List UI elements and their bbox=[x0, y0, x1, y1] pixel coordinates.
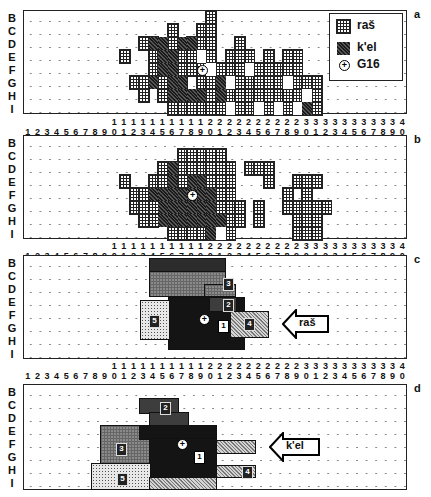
empty-cell bbox=[302, 89, 312, 102]
ras-cell bbox=[216, 162, 226, 175]
empty-cell bbox=[197, 50, 207, 63]
g16-circled-plus-icon: + bbox=[177, 439, 188, 450]
ras-cell bbox=[158, 175, 168, 188]
ras-cell bbox=[149, 214, 159, 227]
ras-cell bbox=[206, 149, 216, 162]
row-label-d: D bbox=[6, 38, 18, 51]
kel-cell bbox=[206, 201, 216, 214]
column-tick: 6 bbox=[71, 371, 81, 382]
kel-cell bbox=[168, 175, 178, 188]
ras-cell bbox=[245, 162, 255, 175]
column-tick: 4 bbox=[244, 371, 254, 382]
kel-cell bbox=[168, 89, 178, 102]
zone-4-bottom bbox=[149, 477, 217, 490]
kel-cell bbox=[168, 188, 178, 201]
ras-cell bbox=[293, 175, 303, 188]
ras-cell bbox=[312, 175, 322, 188]
kel-cell bbox=[178, 76, 188, 89]
g16-circled-plus-icon: + bbox=[339, 60, 350, 71]
column-tick: 9 bbox=[292, 371, 302, 382]
ras-cell bbox=[283, 188, 293, 201]
empty-cell bbox=[283, 76, 293, 89]
zone-1-label: 1 bbox=[218, 320, 229, 333]
ras-cell bbox=[322, 201, 332, 214]
column-tick: 2 bbox=[225, 371, 235, 382]
column-tick: 1 bbox=[311, 371, 321, 382]
ras-cell bbox=[283, 63, 293, 76]
row-label-b: B bbox=[6, 137, 18, 150]
row-label-b: B bbox=[6, 257, 18, 270]
ras-cell bbox=[139, 201, 149, 214]
ras-cell bbox=[120, 175, 130, 188]
panel-d-grid: 2 3 1 4 5 + k'el bbox=[23, 384, 407, 490]
ras-cell bbox=[226, 201, 236, 214]
kel-arrow: k'el bbox=[269, 432, 321, 466]
ras-cell bbox=[226, 63, 236, 76]
column-tick: 4 bbox=[52, 371, 62, 382]
legend: raš k'el + G16 bbox=[329, 13, 403, 81]
kel-cell bbox=[197, 188, 207, 201]
g16-circled-plus-icon: + bbox=[199, 314, 210, 325]
kel-cell bbox=[168, 162, 178, 175]
ras-cell bbox=[312, 89, 322, 102]
ras-cell bbox=[139, 188, 149, 201]
ras-cell bbox=[293, 89, 303, 102]
ras-cell bbox=[216, 102, 226, 115]
kel-cell bbox=[206, 214, 216, 227]
ras-cell bbox=[187, 149, 197, 162]
ras-cell bbox=[302, 76, 312, 89]
ras-cell bbox=[197, 37, 207, 50]
kel-cell bbox=[216, 214, 226, 227]
ras-cell bbox=[197, 162, 207, 175]
ras-cell bbox=[226, 188, 236, 201]
ras-cell bbox=[264, 50, 274, 63]
row-label-g: G bbox=[6, 77, 18, 90]
ras-arrow-label: raš bbox=[299, 316, 316, 328]
column-tick: 8 bbox=[378, 371, 388, 382]
ras-cell bbox=[283, 50, 293, 63]
column-tick: 0 bbox=[109, 371, 119, 382]
ras-cell bbox=[254, 89, 264, 102]
panel-letter-b: b bbox=[414, 133, 421, 145]
row-label-h: H bbox=[6, 335, 18, 348]
column-tick: 5 bbox=[157, 371, 167, 382]
column-tick: 9 bbox=[388, 371, 398, 382]
empty-cell bbox=[226, 102, 236, 115]
kel-cell bbox=[178, 214, 188, 227]
kel-cell bbox=[216, 89, 226, 102]
zone-4-upper bbox=[216, 440, 256, 454]
ras-cell bbox=[302, 188, 312, 201]
legend-label-g16: G16 bbox=[357, 57, 380, 71]
ras-cell bbox=[264, 102, 274, 115]
ras-cell bbox=[206, 37, 216, 50]
panel-b-grid: + bbox=[23, 135, 407, 239]
ras-cell bbox=[139, 37, 149, 50]
ras-cell bbox=[254, 214, 264, 227]
ras-cell bbox=[168, 37, 178, 50]
column-tick: 3 bbox=[42, 371, 52, 382]
ras-cell bbox=[197, 227, 207, 240]
zone-2-label: 2 bbox=[223, 299, 234, 312]
kel-cell bbox=[168, 63, 178, 76]
ras-cell bbox=[197, 24, 207, 37]
kel-cell bbox=[216, 76, 226, 89]
ras-cell bbox=[178, 149, 188, 162]
panel-letter-d: d bbox=[414, 382, 421, 394]
kel-cell bbox=[187, 37, 197, 50]
kel-cell bbox=[197, 214, 207, 227]
zone-4-label: 4 bbox=[242, 466, 253, 479]
column-axis-c: 1234567891011121314151617181920212223242… bbox=[23, 361, 407, 385]
ras-cell bbox=[206, 76, 216, 89]
ras-cell bbox=[178, 227, 188, 240]
ras-cell bbox=[178, 102, 188, 115]
ras-cell bbox=[245, 89, 255, 102]
ras-cell bbox=[226, 162, 236, 175]
ras-cell bbox=[312, 227, 322, 240]
ras-arrow: raš bbox=[282, 309, 330, 343]
ras-cell bbox=[274, 76, 284, 89]
column-tick: 0 bbox=[397, 371, 407, 382]
ras-cell bbox=[178, 162, 188, 175]
column-tick: 9 bbox=[196, 371, 206, 382]
column-tick: 6 bbox=[167, 371, 177, 382]
row-label-e: E bbox=[6, 176, 18, 189]
